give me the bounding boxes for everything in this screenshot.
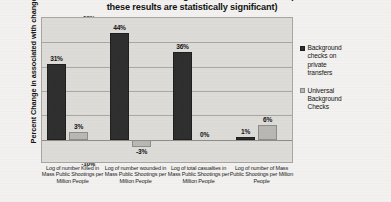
bar[interactable] bbox=[69, 132, 88, 139]
bar[interactable] bbox=[132, 140, 151, 147]
category-label-line: Public Shootings per Million bbox=[227, 171, 296, 177]
bar-value-label: 3% bbox=[63, 123, 94, 130]
legend-swatch-icon bbox=[300, 88, 305, 93]
legend-label-line: Background bbox=[308, 95, 342, 103]
legend-label-line: Background bbox=[308, 44, 342, 52]
bar-value-label: 0% bbox=[189, 131, 220, 138]
bar[interactable] bbox=[258, 125, 277, 140]
zero-baseline bbox=[42, 140, 292, 141]
legend-swatch-icon bbox=[300, 46, 305, 51]
gridline bbox=[42, 91, 292, 92]
bar[interactable] bbox=[236, 137, 255, 139]
bar-value-label: 31% bbox=[41, 55, 72, 62]
category-label-line: Mass Public Shootings per bbox=[38, 171, 107, 177]
bar[interactable] bbox=[110, 33, 129, 140]
bar-value-label: -3% bbox=[126, 148, 157, 155]
category-label-line: Million People bbox=[101, 178, 170, 184]
legend-item[interactable]: UniversalBackgroundChecks bbox=[300, 87, 388, 112]
x-axis-category-label: Log of number of MassPublic Shootings pe… bbox=[227, 165, 296, 184]
legend-label: Backgroundchecks onprivatetransfers bbox=[308, 44, 342, 78]
legend-label-line: Checks bbox=[308, 103, 342, 111]
legend-label-line: private bbox=[308, 61, 342, 69]
legend-label-line: checks on bbox=[308, 52, 342, 60]
chart-legend: Backgroundchecks onprivatetransfersUnive… bbox=[300, 44, 388, 121]
legend-item[interactable]: Backgroundchecks onprivatetransfers bbox=[300, 44, 388, 78]
x-axis-category-label: Log of total casualties inMass Public Sh… bbox=[164, 165, 233, 184]
category-label-line: People bbox=[227, 178, 296, 184]
bar-value-label: 1% bbox=[230, 128, 261, 135]
bar-value-label: 44% bbox=[104, 24, 135, 31]
legend-label-line: Universal bbox=[308, 87, 342, 95]
bar-value-label: 36% bbox=[167, 43, 198, 50]
plot-area: 31%44%36%1%3%-3%0%6% bbox=[41, 17, 293, 163]
bar-value-label: 6% bbox=[252, 116, 283, 123]
x-axis-category-label: Log of number wounded inMass Public Shoo… bbox=[101, 165, 170, 184]
bar[interactable] bbox=[173, 52, 192, 140]
category-label-line: Million People bbox=[164, 178, 233, 184]
y-axis-title: Percent Change in associated with change… bbox=[29, 0, 38, 150]
chart-title: Across States and Years Using Data from … bbox=[18, 0, 366, 13]
chart-title-line-2: these results are statistically signific… bbox=[18, 2, 366, 13]
legend-label-line: transfers bbox=[308, 69, 342, 77]
gridline bbox=[42, 67, 292, 68]
x-axis-category-label: Log of number Killed inMass Public Shoot… bbox=[38, 165, 107, 184]
category-label-line: Million People bbox=[38, 178, 107, 184]
category-label-line: Mass Public Shootings per bbox=[164, 171, 233, 177]
category-label-line: Mass Public Shootings per bbox=[101, 171, 170, 177]
legend-label: UniversalBackgroundChecks bbox=[308, 87, 342, 112]
